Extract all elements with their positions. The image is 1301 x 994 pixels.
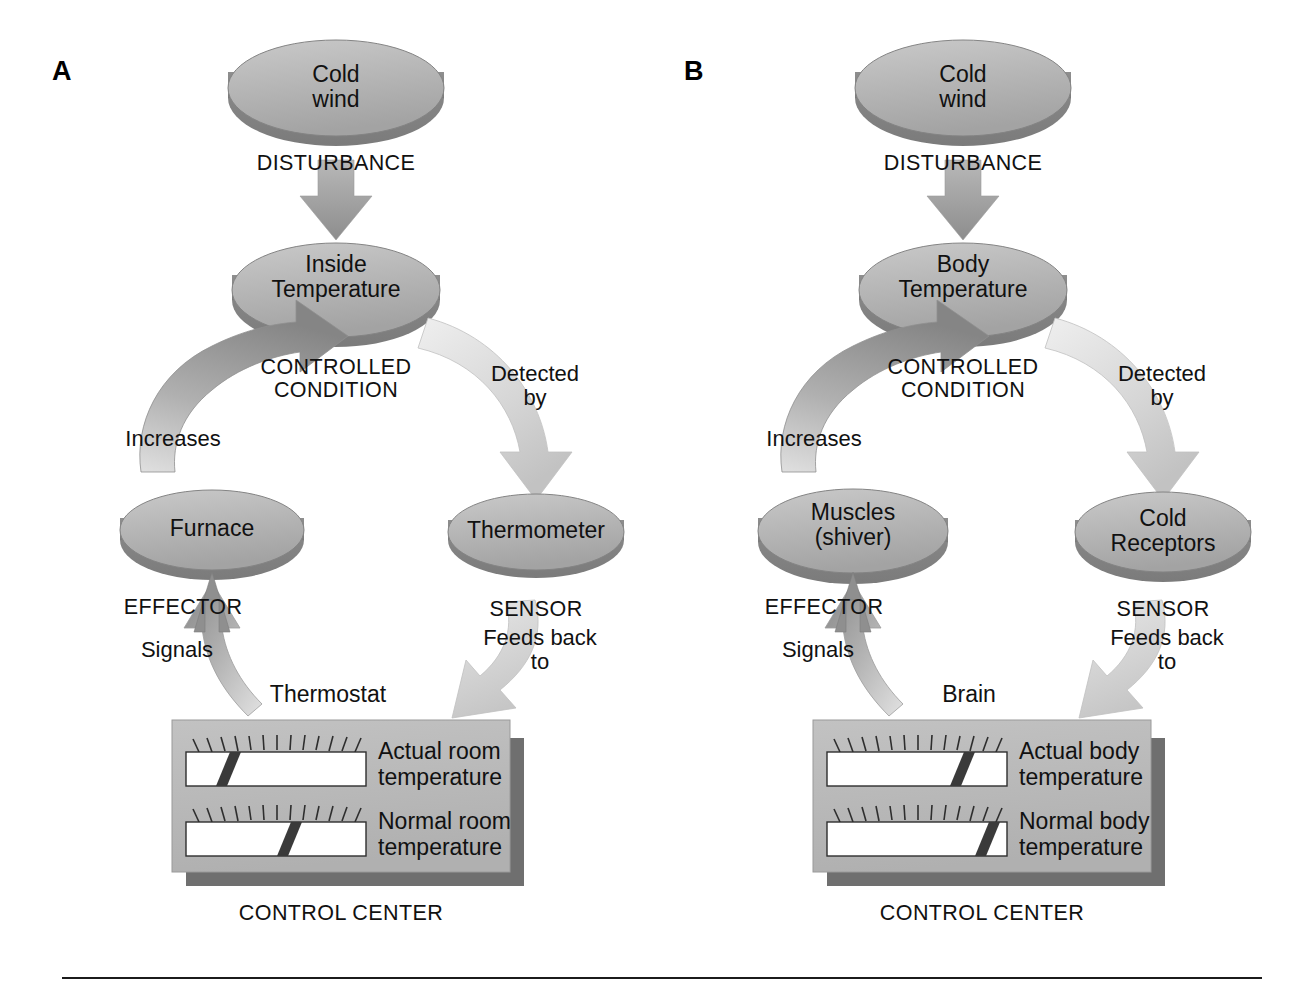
label-disturbance-b: DISTURBANCE [863,152,1063,175]
node-label-inside-temperature: Inside Temperature [246,252,426,302]
figure-canvas: A Cold wind DISTURBANCE Inside Temperatu… [0,0,1301,994]
node-label-cold-wind-b: Cold wind [883,62,1043,112]
gauge-label-a2: Normal room temperature [378,809,548,861]
node-label-body-temperature: Body Temperature [873,252,1053,302]
gauge-bar-a2 [186,822,366,856]
label-control-center-b: CONTROL CENTER [862,902,1102,925]
label-feeds-back-a: Feeds back to [456,626,624,674]
label-detected-by-b: Detected by [1087,362,1237,410]
label-control-center-a: CONTROL CENTER [221,902,461,925]
gauge-label-a1: Actual room temperature [378,739,548,791]
node-label-cold-wind-a: Cold wind [256,62,416,112]
label-brain-title: Brain [849,682,1089,707]
label-signals-a: Signals [112,638,242,662]
node-label-cold-receptors: Cold Receptors [1093,506,1233,556]
label-thermostat-title: Thermostat [208,682,448,707]
label-disturbance-a: DISTURBANCE [236,152,436,175]
label-increases-a: Increases [98,427,248,451]
gauge-label-b2: Normal body temperature [1019,809,1189,861]
label-feeds-back-b: Feeds back to [1083,626,1251,674]
bottom-divider-rule [62,977,1262,979]
node-label-furnace: Furnace [140,516,284,541]
gauge-label-b1: Actual body temperature [1019,739,1189,791]
label-controlled-condition-a: CONTROLLED CONDITION [236,356,436,402]
label-effector-b: EFFECTOR [751,596,897,619]
node-label-muscles-shiver: Muscles (shiver) [773,500,933,550]
panel-letter-b: B [684,56,704,87]
label-signals-b: Signals [753,638,883,662]
label-sensor-b: SENSOR [1093,598,1233,621]
label-controlled-condition-b: CONTROLLED CONDITION [863,356,1063,402]
label-effector-a: EFFECTOR [110,596,256,619]
label-detected-by-a: Detected by [460,362,610,410]
gauge-bar-a1 [186,752,366,786]
panel-letter-a: A [52,56,72,87]
gauge-bar-b1 [827,752,1007,786]
node-label-thermometer: Thermometer [456,518,616,543]
label-increases-b: Increases [739,427,889,451]
label-sensor-a: SENSOR [466,598,606,621]
